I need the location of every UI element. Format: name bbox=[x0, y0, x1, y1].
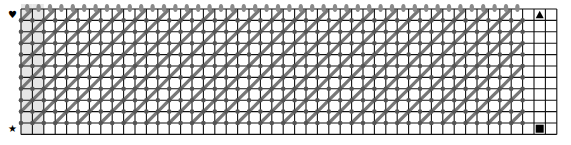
pin-dot bbox=[201, 41, 206, 46]
diagonal-stroke bbox=[365, 102, 372, 109]
pin-dot bbox=[509, 64, 514, 69]
pin-dot bbox=[133, 30, 138, 35]
pin-dot bbox=[384, 75, 389, 80]
pin-dot bbox=[315, 64, 320, 69]
pin-dot bbox=[292, 121, 297, 126]
pin-dot bbox=[452, 41, 457, 46]
pin-dot bbox=[133, 18, 138, 23]
pin-dot bbox=[498, 41, 503, 46]
pin-dot bbox=[42, 18, 47, 23]
pin-dot bbox=[213, 30, 218, 35]
bobbin-oval bbox=[219, 4, 223, 12]
diagonal-stroke bbox=[80, 114, 87, 121]
diagonal-stroke bbox=[228, 102, 235, 109]
pin-dot bbox=[247, 52, 252, 57]
diagonal-stroke bbox=[228, 57, 235, 64]
pin-dot bbox=[395, 41, 400, 46]
diagonal-stroke bbox=[319, 79, 326, 86]
pin-dot bbox=[475, 52, 480, 57]
diagonal-stroke bbox=[479, 57, 486, 64]
pin-dot bbox=[224, 87, 229, 92]
pin-dot bbox=[87, 52, 92, 57]
pin-dot bbox=[327, 18, 332, 23]
pin-dot bbox=[19, 75, 24, 80]
diagonal-stroke bbox=[137, 57, 144, 64]
pin-dot bbox=[349, 52, 354, 57]
pin-dot bbox=[110, 52, 115, 57]
pin-dot bbox=[190, 52, 195, 57]
diagonal-stroke bbox=[148, 45, 155, 52]
pin-dot bbox=[167, 64, 172, 69]
diagonal-stroke bbox=[80, 68, 87, 75]
pin-dot bbox=[247, 41, 252, 46]
diagonal-stroke bbox=[513, 91, 520, 98]
diagonal-stroke bbox=[194, 22, 201, 29]
diagonal-stroke bbox=[80, 45, 87, 52]
pin-dot bbox=[338, 87, 343, 92]
pin-dot bbox=[486, 121, 491, 126]
diagonal-stroke bbox=[376, 22, 383, 29]
pin-dot bbox=[361, 98, 366, 103]
pin-dot bbox=[304, 121, 309, 126]
pin-dot bbox=[315, 109, 320, 114]
pin-dot bbox=[520, 109, 525, 114]
pin-dot bbox=[76, 75, 81, 80]
diagonal-stroke bbox=[502, 102, 509, 109]
pin-dot bbox=[144, 41, 149, 46]
pin-dot bbox=[190, 98, 195, 103]
pin-dot bbox=[429, 109, 434, 114]
diagonal-stroke bbox=[160, 34, 167, 41]
pin-dot bbox=[509, 52, 514, 57]
diagonal-stroke bbox=[160, 57, 167, 64]
pin-dot bbox=[30, 87, 35, 92]
pin-dot bbox=[304, 87, 309, 92]
bobbin-oval bbox=[128, 4, 132, 12]
pin-dot bbox=[452, 64, 457, 69]
pin-dot bbox=[327, 75, 332, 80]
bobbin-oval bbox=[36, 4, 40, 12]
diagonal-stroke bbox=[91, 34, 98, 41]
pin-dot bbox=[292, 18, 297, 23]
diagonal-stroke bbox=[331, 45, 338, 52]
pin-dot bbox=[201, 109, 206, 114]
pin-dot bbox=[475, 30, 480, 35]
pin-dot bbox=[520, 52, 525, 57]
pin-dot bbox=[372, 75, 377, 80]
pin-dot bbox=[486, 75, 491, 80]
diagonal-stroke bbox=[422, 91, 429, 98]
star-marker: ★ bbox=[8, 124, 17, 134]
bobbin-oval bbox=[93, 4, 97, 12]
pin-dot bbox=[520, 75, 525, 80]
bobbin-oval bbox=[481, 4, 485, 12]
pin-dot bbox=[292, 75, 297, 80]
diagonal-stroke bbox=[502, 34, 509, 41]
diagonal-stroke bbox=[114, 79, 121, 86]
pin-dot bbox=[224, 121, 229, 126]
pin-dot bbox=[110, 98, 115, 103]
pin-dot bbox=[235, 75, 240, 80]
pin-dot bbox=[486, 98, 491, 103]
pin-dot bbox=[76, 41, 81, 46]
diagonal-stroke bbox=[171, 22, 178, 29]
pin-dot bbox=[224, 52, 229, 57]
pin-dot bbox=[475, 41, 480, 46]
pin-dot bbox=[133, 41, 138, 46]
pin-dot bbox=[463, 98, 468, 103]
diagonal-stroke bbox=[262, 22, 269, 29]
pin-dot bbox=[201, 75, 206, 80]
diagonal-stroke bbox=[376, 114, 383, 121]
diagonal-stroke bbox=[365, 79, 372, 86]
pin-dot bbox=[475, 98, 480, 103]
pin-dot bbox=[156, 64, 161, 69]
pin-dot bbox=[315, 121, 320, 126]
pin-dot bbox=[327, 109, 332, 114]
diagonal-stroke bbox=[80, 91, 87, 98]
diagonal-stroke bbox=[422, 22, 429, 29]
pin-dot bbox=[133, 98, 138, 103]
pin-dot bbox=[520, 121, 525, 126]
pin-dot bbox=[19, 109, 24, 114]
pin-dot bbox=[452, 52, 457, 57]
pin-dot bbox=[509, 75, 514, 80]
diagonal-stroke bbox=[126, 91, 133, 98]
diagonal-stroke bbox=[399, 91, 406, 98]
